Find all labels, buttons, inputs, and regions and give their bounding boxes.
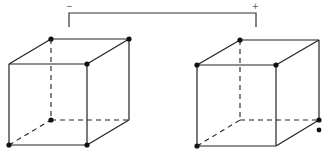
- vertex-dot: [48, 36, 53, 41]
- vertex-dot: [126, 36, 131, 41]
- cubes-diagram: − +: [0, 0, 331, 160]
- vertex-dot: [194, 143, 199, 148]
- vertex-dot: [6, 142, 11, 147]
- right-cube: [194, 37, 321, 148]
- vertex-dot: [237, 37, 242, 42]
- vertex-dot: [48, 117, 53, 122]
- vertex-dot: [84, 61, 89, 66]
- left-cube: [6, 36, 131, 147]
- plus-sign: +: [252, 2, 259, 11]
- minus-sign: −: [66, 2, 73, 11]
- polarity-bracket: − +: [66, 2, 259, 27]
- extra-dot: [317, 128, 322, 133]
- vertex-dot: [273, 62, 278, 67]
- vertex-dot: [316, 117, 321, 122]
- vertex-dot: [84, 142, 89, 147]
- vertex-dot: [194, 62, 199, 67]
